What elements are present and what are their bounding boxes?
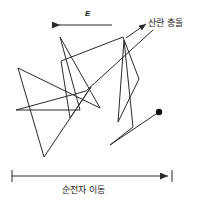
drift-extent-measure xyxy=(12,170,172,182)
electron-drift-diagram: E 산란 충돌 순전자 이동 xyxy=(0,0,197,211)
electron-start-dot xyxy=(156,109,162,115)
electron-trajectory xyxy=(16,30,159,157)
net-electron-drift-label: 순전자 이동 xyxy=(62,186,105,195)
diagram-canvas xyxy=(0,0,197,211)
electric-field-symbol: E xyxy=(85,10,90,18)
collision-leader-arrow xyxy=(126,24,146,38)
scattering-collision-label: 산란 충돌 xyxy=(148,19,183,28)
